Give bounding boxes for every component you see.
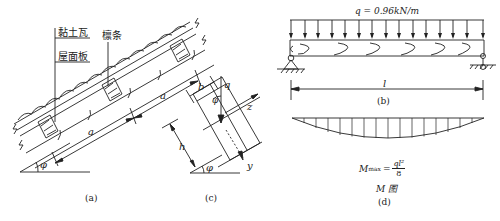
label-distributed-load: q = 0.96kN/m bbox=[355, 7, 419, 16]
label-angle-phi-a: φ bbox=[40, 160, 47, 170]
mmax-denominator: 8 bbox=[396, 169, 401, 178]
purlin-block-2 bbox=[102, 78, 122, 101]
panel-d-moment-diagram bbox=[292, 118, 484, 138]
mmax-subscript: max bbox=[368, 165, 381, 172]
label-angle-phi-c-bottom: φ bbox=[206, 163, 213, 173]
purlin-block-3 bbox=[170, 39, 190, 62]
panel-b-beam bbox=[277, 20, 496, 100]
label-roof-board: 屋面板 bbox=[58, 52, 88, 62]
mmax-fraction: ql² 8 bbox=[392, 159, 405, 178]
label-clay-tile: 黏土瓦 bbox=[58, 28, 88, 38]
caption-b: (b) bbox=[377, 97, 390, 106]
label-load-q: q bbox=[224, 80, 230, 90]
label-width-b: b bbox=[198, 82, 204, 92]
label-axis-z: z bbox=[247, 102, 252, 112]
mmax-equals: = bbox=[383, 164, 391, 174]
label-axis-y: y bbox=[247, 161, 253, 171]
caption-d: (d) bbox=[378, 198, 391, 207]
mmax-symbol: M bbox=[359, 164, 368, 174]
label-angle-phi-c-top: φ bbox=[212, 96, 218, 105]
caption-c: (c) bbox=[205, 194, 217, 203]
caption-a: (a) bbox=[85, 194, 97, 203]
moment-diagram-title: M 图 bbox=[376, 185, 397, 194]
label-spacing-a-2: a bbox=[160, 91, 166, 101]
label-purlin: 檩条 bbox=[102, 31, 122, 41]
mmax-formula: Mmax = ql² 8 bbox=[359, 159, 405, 178]
label-spacing-a-1: a bbox=[88, 127, 94, 137]
mmax-numerator: ql² bbox=[392, 159, 405, 169]
label-span-l: l bbox=[383, 79, 386, 89]
label-height-h: h bbox=[179, 142, 185, 152]
panel-c-section bbox=[162, 76, 262, 173]
